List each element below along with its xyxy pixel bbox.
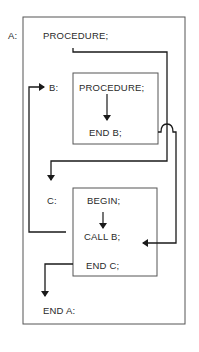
flow-a-to-c-arrow	[51, 48, 167, 180]
block-b-label: B:	[49, 83, 58, 93]
block-b-header: PROCEDURE;	[79, 83, 144, 93]
block-c-call: CALL B;	[84, 232, 120, 242]
block-a-label: A:	[8, 31, 17, 41]
block-a-footer: END A:	[43, 306, 75, 316]
block-c-footer: END C;	[86, 261, 119, 271]
block-b-footer: END B;	[89, 128, 122, 138]
flow-call-b-arrow	[29, 87, 66, 232]
block-a-box	[23, 17, 185, 324]
block-c-header: BEGIN;	[87, 196, 120, 206]
block-a-header: PROCEDURE;	[43, 31, 108, 41]
flow-end-c-arrow	[45, 264, 73, 296]
block-c-label: C:	[47, 196, 57, 206]
program-structure-diagram	[0, 0, 199, 352]
flow-return-from-b-arrow	[143, 124, 176, 243]
